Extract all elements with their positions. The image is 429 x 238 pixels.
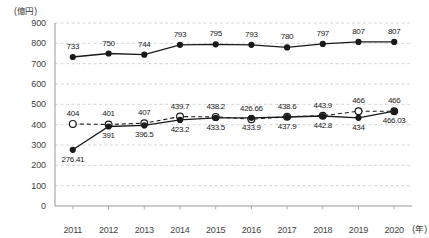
data-point-marker	[320, 113, 326, 119]
data-point-marker	[320, 41, 326, 47]
data-point-marker	[248, 42, 254, 48]
data-point-label: 780	[281, 32, 293, 41]
data-point-label: 407	[138, 108, 150, 117]
data-point-label: 391	[102, 131, 114, 140]
data-point-label: 466.03	[383, 116, 406, 125]
data-point-marker	[177, 117, 183, 123]
data-point-label: 793	[245, 30, 257, 39]
data-point-label: 750	[102, 39, 114, 48]
data-point-label: 434	[352, 123, 364, 132]
data-point-label: 404	[67, 109, 79, 118]
data-point-label: 807	[388, 27, 400, 36]
data-point-marker	[355, 39, 361, 45]
data-point-marker	[69, 121, 76, 128]
data-point-label: 466	[352, 96, 364, 105]
data-point-marker	[248, 115, 254, 121]
data-point-marker	[213, 115, 219, 121]
data-point-label: 433.5	[206, 123, 225, 132]
data-point-label: 438.6	[278, 102, 297, 111]
data-point-label: 807	[352, 27, 364, 36]
data-point-marker	[355, 108, 362, 115]
chart-container: (億円) (年) 0100200300400500600700800900 20…	[0, 0, 429, 238]
data-point-marker	[391, 108, 397, 114]
data-point-label: 426.66	[240, 104, 263, 113]
data-point-marker	[284, 114, 290, 120]
data-series	[69, 39, 397, 153]
data-point-marker	[70, 54, 76, 60]
data-point-marker	[70, 147, 76, 153]
data-point-marker	[391, 39, 397, 45]
data-point-marker	[106, 50, 112, 56]
data-point-label: 793	[174, 30, 186, 39]
data-point-label: 433.9	[242, 123, 261, 132]
data-point-label: 795	[209, 29, 221, 38]
data-point-label: 437.9	[278, 122, 297, 131]
data-point-label: 443.9	[313, 101, 332, 110]
data-point-label: 797	[317, 29, 329, 38]
data-point-marker	[141, 52, 147, 58]
data-point-marker	[177, 42, 183, 48]
data-point-label: 438.2	[206, 102, 225, 111]
data-point-marker	[106, 123, 112, 129]
series-line	[73, 111, 394, 150]
data-point-label: 396.5	[135, 130, 154, 139]
data-point-label: 744	[138, 40, 150, 49]
data-point-marker	[355, 115, 361, 121]
data-point-label: 466	[388, 96, 400, 105]
data-point-marker	[213, 41, 219, 47]
data-point-label: 401	[102, 109, 114, 118]
data-point-marker	[141, 122, 147, 128]
data-point-label: 733	[67, 42, 79, 51]
data-point-label: 423.2	[171, 125, 190, 134]
series-line	[73, 42, 394, 57]
data-point-label: 442.8	[313, 121, 332, 130]
data-point-marker	[284, 44, 290, 50]
data-point-label: 439.7	[171, 102, 190, 111]
data-point-label: 276.41	[62, 155, 85, 164]
